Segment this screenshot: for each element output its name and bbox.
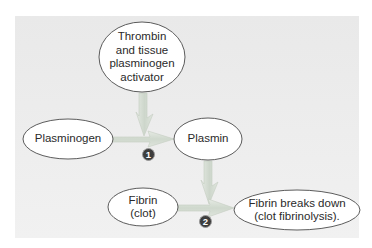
node-plasmin-label: Plasmin [174,118,242,160]
node-activator-label: Thrombin and tissue plasminogen activato… [99,22,185,92]
arrow-activator-to-step1 [136,93,153,136]
node-breakdown-label: Fibrin breaks down (clot fibrinolysis). [234,190,360,230]
arrow-plasmin-to-step2 [201,161,218,204]
step-badge-2: 2 [199,215,212,228]
step-badge-1: 1 [142,148,155,161]
node-plasminogen-label: Plasminogen [23,119,113,159]
node-fibrin-label: Fibrin (clot) [108,188,178,226]
